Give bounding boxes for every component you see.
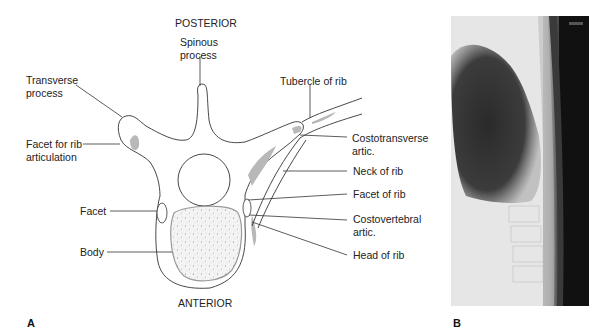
label-body: Body: [80, 246, 104, 259]
label-costotransverse: Costotransverse artic.: [352, 132, 428, 157]
vertebral-body: [171, 206, 242, 281]
label-posterior: POSTERIOR: [175, 17, 237, 30]
label-anterior: ANTERIOR: [178, 297, 232, 310]
lateral-spine-radiograph: [451, 16, 589, 306]
panel-letter-b: B: [453, 317, 461, 329]
panel-letter-a: A: [27, 317, 35, 329]
label-facet-for-rib: Facet for rib articulation: [26, 138, 82, 163]
label-facet: Facet: [80, 205, 106, 218]
right-costal-facet: [243, 199, 251, 217]
radiograph-image: [451, 16, 589, 306]
label-spinous-process: Spinous process: [180, 36, 218, 61]
vertebral-foramen: [178, 154, 230, 206]
label-head-of-rib: Head of rib: [353, 249, 404, 262]
label-facet-of-rib: Facet of rib: [353, 188, 406, 201]
label-costovertebral: Costovertebral artic.: [353, 213, 421, 238]
label-transverse-process: Transverse process: [26, 74, 78, 99]
label-neck-of-rib: Neck of rib: [353, 165, 403, 178]
left-costal-facet: [157, 203, 167, 223]
label-tubercle-of-rib: Tubercle of rib: [280, 75, 347, 88]
rib: [252, 98, 362, 228]
